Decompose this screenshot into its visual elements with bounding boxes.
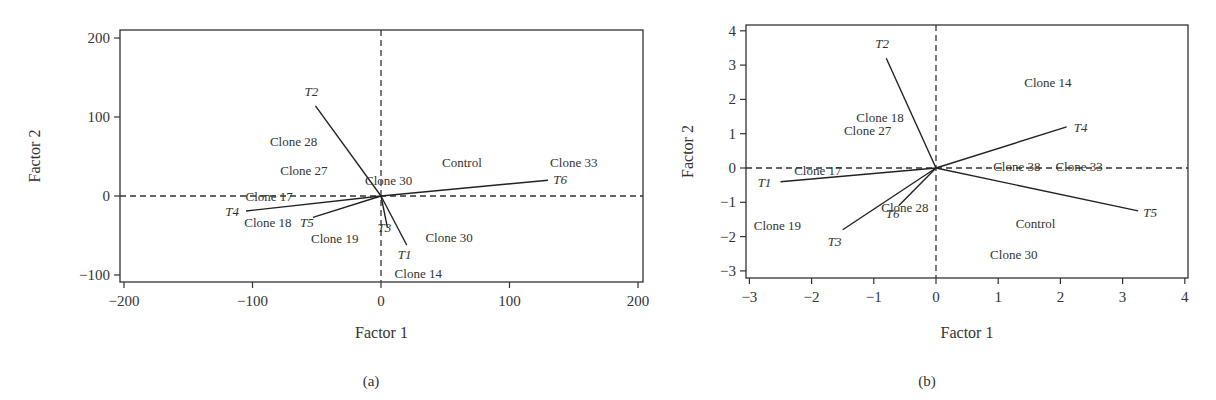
x-tick-label: 0 <box>377 293 385 309</box>
vector-label: T5 <box>1143 205 1157 220</box>
point-label: Clone 28 <box>881 200 928 215</box>
vector-label: T5 <box>300 215 314 230</box>
panel-caption: (b) <box>918 373 936 390</box>
x-tick-label: −100 <box>237 293 268 309</box>
point-label: Clone 18 <box>244 215 291 230</box>
vector-label: T6 <box>553 172 567 187</box>
y-tick-label: −1 <box>720 194 736 210</box>
y-tick-label: 4 <box>729 23 737 39</box>
x-tick-label: 4 <box>1181 289 1189 305</box>
point-label: Clone 14 <box>1024 75 1072 90</box>
point-label: Clone 30 <box>990 247 1037 262</box>
panel-caption: (a) <box>363 373 380 390</box>
point-label: Clone 28 <box>270 134 317 149</box>
y-tick-label: −2 <box>720 229 736 245</box>
point-label: Clone 33 <box>1055 159 1102 174</box>
y-tick-label: 100 <box>88 109 111 125</box>
x-tick-label: 0 <box>932 289 940 305</box>
point-label: Clone 27 <box>280 163 328 178</box>
point-label: Clone 33 <box>550 155 597 170</box>
x-tick-label: 3 <box>1119 289 1127 305</box>
vector-label: T1 <box>398 247 412 262</box>
vector-label: T4 <box>1074 120 1088 135</box>
vector-label: T1 <box>758 175 772 190</box>
point-label: Clone 17 <box>794 163 842 178</box>
y-tick-label: 3 <box>729 57 737 73</box>
point-label: Clone 27 <box>844 123 892 138</box>
plot-frame <box>746 25 1188 278</box>
x-tick-label: −200 <box>109 293 140 309</box>
y-tick-label: −3 <box>720 263 736 279</box>
y-tick-label: −100 <box>79 267 110 283</box>
point-label: Clone 19 <box>754 218 801 233</box>
figure: −200−1000100200−1000100200Factor 1Factor… <box>0 0 1216 400</box>
x-tick-label: −3 <box>741 289 757 305</box>
vector-label: T2 <box>305 84 319 99</box>
x-tick-label: 200 <box>627 293 650 309</box>
vector-label: T3 <box>378 220 392 235</box>
point-label: Clone 38 <box>993 159 1040 174</box>
x-tick-label: 100 <box>498 293 521 309</box>
x-tick-label: 2 <box>1057 289 1065 305</box>
y-tick-label: 0 <box>103 188 111 204</box>
point-label: Clone 30 <box>425 230 472 245</box>
point-label: Clone 17 <box>246 189 294 204</box>
y-tick-label: 2 <box>729 91 737 107</box>
chart-panel-b: −3−2−101234−3−2−101234Factor 1Factor 2(b… <box>679 23 1189 390</box>
y-tick-label: 200 <box>88 30 111 46</box>
point-label: Clone 14 <box>395 266 443 281</box>
vector-label: T4 <box>225 204 239 219</box>
x-tick-label: −2 <box>804 289 820 305</box>
y-axis-label: Factor 2 <box>26 130 43 183</box>
loading-vector-t5 <box>936 168 1138 211</box>
point-label: Clone 19 <box>311 231 358 246</box>
vector-label: T2 <box>875 36 889 51</box>
point-label: Control <box>442 155 482 170</box>
y-axis-label: Factor 2 <box>679 125 696 178</box>
y-tick-label: 0 <box>729 160 737 176</box>
point-label: Control <box>1016 216 1056 231</box>
y-tick-label: 1 <box>729 126 737 142</box>
point-label: Clone 30 <box>365 173 412 188</box>
x-axis-label: Factor 1 <box>941 324 994 341</box>
x-tick-label: −1 <box>866 289 882 305</box>
x-axis-label: Factor 1 <box>355 324 408 341</box>
vector-label: T3 <box>828 234 842 249</box>
chart-panel-a: −200−1000100200−1000100200Factor 1Factor… <box>26 30 649 390</box>
x-tick-label: 1 <box>994 289 1002 305</box>
